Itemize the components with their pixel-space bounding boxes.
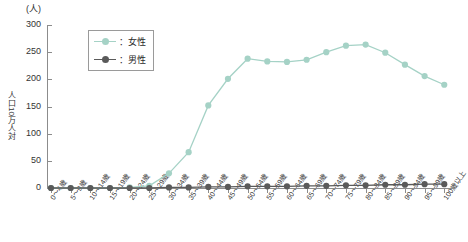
data-point	[421, 73, 427, 79]
data-point	[225, 184, 231, 190]
data-point	[304, 57, 310, 63]
data-point	[363, 182, 369, 188]
data-point	[127, 185, 133, 191]
data-point	[284, 183, 290, 189]
data-point	[304, 183, 310, 189]
data-point	[87, 185, 93, 191]
data-point	[323, 183, 329, 189]
data-point	[186, 184, 192, 190]
data-point	[402, 182, 408, 188]
legend-label: ：女性	[119, 35, 146, 48]
data-point	[205, 184, 211, 190]
data-point	[382, 182, 388, 188]
legend-label: ：男性	[119, 53, 146, 66]
chart-legend: ：女性：男性	[88, 30, 154, 71]
data-point	[48, 185, 54, 191]
data-point	[382, 50, 388, 56]
data-point	[284, 59, 290, 65]
data-point	[323, 49, 329, 55]
data-point	[146, 185, 152, 191]
data-point	[402, 62, 408, 68]
data-point	[421, 181, 427, 187]
data-point	[343, 43, 349, 49]
data-point	[166, 184, 172, 190]
data-point	[245, 183, 251, 189]
female-marker-icon	[94, 37, 116, 46]
data-point	[343, 182, 349, 188]
data-point	[264, 58, 270, 64]
data-point	[363, 41, 369, 47]
data-point	[264, 183, 270, 189]
legend-item: ：女性	[94, 35, 146, 48]
data-point	[68, 185, 74, 191]
data-point	[441, 82, 447, 88]
data-point	[245, 56, 251, 62]
data-point	[107, 185, 113, 191]
male-marker-icon	[94, 55, 116, 64]
legend-item: ：男性	[94, 53, 146, 66]
data-point	[205, 102, 211, 108]
data-point	[166, 170, 172, 176]
data-point	[441, 181, 447, 187]
data-point	[186, 149, 192, 155]
data-point	[225, 76, 231, 82]
